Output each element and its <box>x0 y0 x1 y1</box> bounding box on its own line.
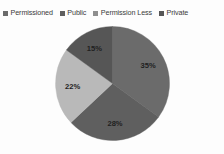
legend-swatch-private <box>159 11 164 16</box>
chart-legend: Permissioned Public Permission Less Priv… <box>0 6 224 20</box>
pie-svg: 35%28%22%15% <box>55 26 170 141</box>
legend-item-private[interactable]: Private <box>159 9 188 17</box>
legend-swatch-permission-less <box>93 11 98 16</box>
legend-item-permissioned[interactable]: Permissioned <box>3 9 53 17</box>
pie-data-label-public: 28% <box>107 119 122 128</box>
legend-label-public: Public <box>67 9 86 17</box>
legend-label-private: Private <box>167 9 189 17</box>
legend-item-permission-less[interactable]: Permission Less <box>93 9 152 17</box>
pie-data-label-private: 15% <box>87 44 102 53</box>
legend-item-public[interactable]: Public <box>60 9 86 17</box>
pie-data-label-permission-less: 22% <box>65 82 80 91</box>
legend-swatch-permissioned <box>3 11 8 16</box>
legend-label-permission-less: Permission Less <box>101 9 152 17</box>
legend-swatch-public <box>60 11 65 16</box>
pie-chart-figure: Permissioned Public Permission Less Priv… <box>0 0 224 154</box>
pie-data-label-permissioned: 35% <box>140 61 155 70</box>
legend-label-permissioned: Permissioned <box>11 9 53 17</box>
pie-plot-area: 35%28%22%15% <box>55 26 170 141</box>
